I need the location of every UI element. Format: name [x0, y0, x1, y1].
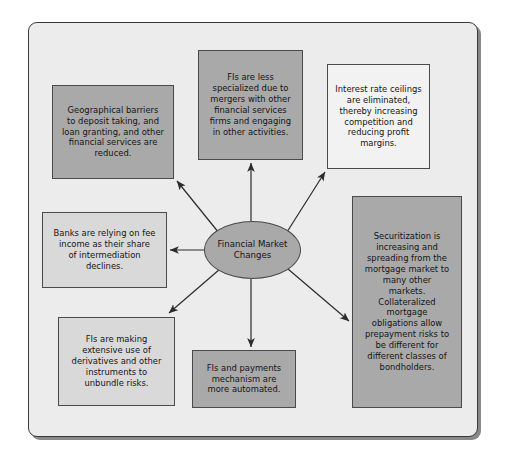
hub-label: Financial Market Changes	[218, 239, 288, 262]
diagram-canvas: Financial Market Changes Geographical ba…	[0, 0, 505, 472]
node-fis-payments-mechanism[interactable]: FIs and payments mechanism are more auto…	[192, 350, 296, 408]
node-securitization[interactable]: Securitization is increasing and spreadi…	[352, 196, 462, 408]
node-banks-fee-income[interactable]: Banks are relying on fee income as their…	[42, 212, 167, 288]
node-fis-payments-mechanism-label: FIs and payments mechanism are more auto…	[197, 363, 291, 396]
node-fis-derivatives[interactable]: FIs are making extensive use of derivati…	[58, 317, 175, 406]
node-fis-less-specialized-label: FIs are less specialized due to mergers …	[203, 72, 298, 138]
node-interest-rate-ceilings[interactable]: Interest rate ceilings are eliminated, t…	[327, 64, 430, 169]
node-securitization-label: Securitization is increasing and spreadi…	[357, 231, 457, 373]
node-banks-fee-income-label: Banks are relying on fee income as their…	[47, 228, 162, 272]
hub-node-financial-market-changes[interactable]: Financial Market Changes	[204, 221, 301, 279]
node-geographical-barriers[interactable]: Geographical barriers to deposit taking,…	[52, 85, 174, 179]
node-fis-less-specialized[interactable]: FIs are less specialized due to mergers …	[198, 50, 303, 160]
node-fis-derivatives-label: FIs are making extensive use of derivati…	[63, 334, 170, 389]
node-geographical-barriers-label: Geographical barriers to deposit taking,…	[57, 105, 169, 160]
node-interest-rate-ceilings-label: Interest rate ceilings are eliminated, t…	[332, 84, 425, 150]
